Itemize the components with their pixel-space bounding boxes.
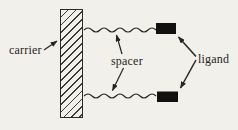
- ligand-block-top: [156, 23, 176, 34]
- carrier-spacer-ligand-diagram: carrier spacer ligand: [0, 0, 238, 130]
- ligand-block-bottom: [157, 92, 178, 103]
- spacer-arrow-top: [117, 35, 123, 54]
- spacer-wave-bottom: [84, 94, 156, 98]
- carrier-arrow: [44, 41, 57, 50]
- carrier-label: carrier: [9, 44, 42, 57]
- ligand-arrow-top: [179, 37, 197, 57]
- ligand-label: ligand: [198, 53, 229, 66]
- spacer-arrow-bottom: [113, 68, 124, 91]
- spacer-label: spacer: [111, 55, 143, 68]
- ligand-arrow-bottom: [181, 60, 197, 88]
- spacer-wave-top: [84, 28, 156, 32]
